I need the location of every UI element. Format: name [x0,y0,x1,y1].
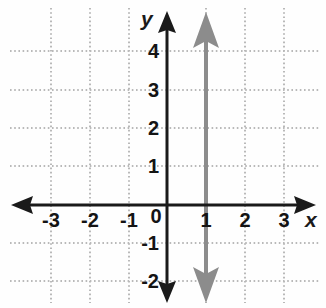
x-axis-label: x [305,209,317,230]
x-tick-label-1: 1 [196,210,216,230]
y-tick-label-1: 1 [139,156,159,176]
x-tick-label-2: 2 [235,210,255,230]
x-tick-label-3: 3 [274,210,294,230]
y-tick-label-4: 4 [139,41,159,61]
x-axis-arrowhead-left [11,196,33,214]
plotted-line-x-equals-1 [193,12,219,303]
x-tick-label-minus3: -3 [37,210,65,230]
y-axis-label: y [141,8,153,29]
y-axis-arrowhead-down [158,281,176,303]
graph-canvas [0,0,326,308]
axes [11,11,316,303]
x-tick-label-minus2: -2 [76,210,104,230]
coordinate-plane-graph: y x -3 -2 -1 0 1 2 3 4 3 2 1 -1 -2 [0,0,326,308]
y-axis-arrowhead-up [158,11,176,33]
x-tick-label-origin: 0 [146,206,166,226]
x-tick-label-minus1: -1 [115,210,143,230]
y-tick-label-minus1: -1 [128,233,159,253]
y-tick-label-2: 2 [139,118,159,138]
grid-lines [10,8,320,303]
y-tick-label-minus2: -2 [128,271,159,291]
y-tick-label-3: 3 [139,80,159,100]
